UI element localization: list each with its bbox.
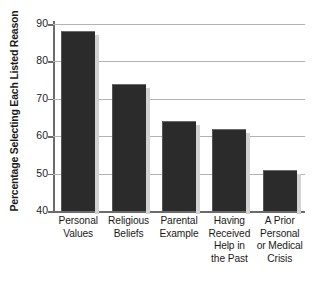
bar-chart-figure: Percentage Selecting Each Listed Reason …	[0, 0, 322, 285]
category-label-3: ParentalExample	[154, 215, 204, 240]
gridline-40	[53, 211, 305, 213]
y-tick-mark-60	[48, 136, 53, 138]
y-tick-label-70: 70	[14, 92, 48, 104]
category-label-4: HavingReceivedHelp inthe Past	[204, 215, 254, 265]
bar-4	[212, 129, 246, 211]
y-tick-label-60: 60	[14, 129, 48, 141]
bar-5	[263, 170, 297, 211]
y-tick-mark-80	[48, 61, 53, 63]
y-tick-mark-70	[48, 99, 53, 101]
y-tick-label-50: 50	[14, 167, 48, 179]
bar-shadow-4	[246, 133, 250, 214]
category-label-1: PersonalValues	[53, 215, 103, 240]
y-tick-label-40: 40	[14, 204, 48, 216]
y-axis-tick-labels: 405060708090	[8, 24, 48, 211]
category-label-5: A PriorPersonalor MedicalCrisis	[255, 215, 305, 265]
y-tick-mark-90	[48, 24, 53, 26]
bar-2	[112, 84, 146, 211]
bar-rect-3	[162, 121, 196, 211]
bar-1	[61, 31, 95, 211]
bar-3	[162, 121, 196, 211]
bar-shadow-1	[95, 35, 99, 214]
bar-shadow-3	[196, 125, 200, 214]
category-label-2: ReligiousBeliefs	[103, 215, 153, 240]
y-tick-mark-50	[48, 174, 53, 176]
bar-rect-4	[212, 129, 246, 211]
bar-shadow-5	[297, 174, 301, 214]
bar-shadow-2	[146, 88, 150, 214]
y-tick-mark-40	[48, 211, 53, 213]
gridline-90	[53, 24, 305, 25]
bar-rect-5	[263, 170, 297, 211]
bar-rect-2	[112, 84, 146, 211]
x-axis-category-labels: PersonalValuesReligiousBeliefsParentalEx…	[53, 215, 305, 283]
y-tick-label-80: 80	[14, 54, 48, 66]
y-tick-label-90: 90	[14, 17, 48, 29]
bar-rect-1	[61, 31, 95, 211]
plot-area	[53, 24, 305, 211]
